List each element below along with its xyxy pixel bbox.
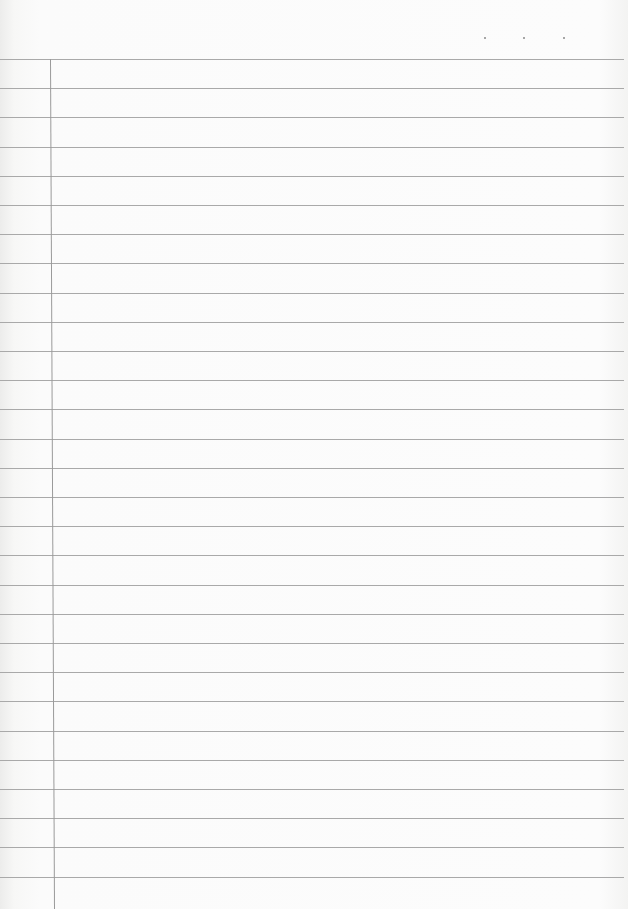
ruled-line xyxy=(0,263,624,264)
ruled-line xyxy=(0,176,624,177)
margin-line xyxy=(50,59,55,909)
ruled-line xyxy=(0,205,624,206)
ruled-line xyxy=(0,643,624,644)
ruled-line xyxy=(0,585,624,586)
ruled-line xyxy=(0,88,624,89)
ruled-line xyxy=(0,526,624,527)
ruled-line xyxy=(0,847,624,848)
ruled-line xyxy=(0,672,624,673)
header-dot xyxy=(523,37,525,39)
header-area xyxy=(0,0,628,59)
ruled-line xyxy=(0,117,624,118)
ruled-line xyxy=(0,731,624,732)
ruled-line xyxy=(0,555,624,556)
header-dot xyxy=(563,37,565,39)
ruled-line xyxy=(0,59,624,60)
ruled-line xyxy=(0,497,624,498)
ruled-line xyxy=(0,351,624,352)
header-dot xyxy=(484,37,486,39)
ruled-line xyxy=(0,760,624,761)
ruled-line xyxy=(0,818,624,819)
ruled-line xyxy=(0,234,624,235)
ruled-line xyxy=(0,701,624,702)
ruled-line xyxy=(0,380,624,381)
ruled-line xyxy=(0,439,624,440)
ruled-line xyxy=(0,614,624,615)
ruled-line xyxy=(0,293,624,294)
ruled-line xyxy=(0,877,624,878)
ruled-line xyxy=(0,409,624,410)
ruled-line xyxy=(0,147,624,148)
ruled-line xyxy=(0,322,624,323)
lined-paper-page xyxy=(0,0,628,909)
ruled-line xyxy=(0,468,624,469)
ruled-line xyxy=(0,789,624,790)
